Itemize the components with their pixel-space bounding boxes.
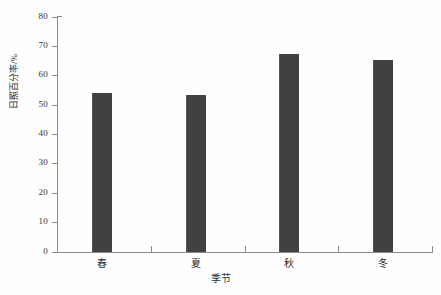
y-axis-tick-label: 20 <box>8 188 48 197</box>
bar-秋 <box>279 54 299 252</box>
y-axis-tick-label: 60 <box>8 70 48 79</box>
y-axis-tick-label: 30 <box>8 158 48 167</box>
chart-figure: 日照百分率/% 01020304050607080 春夏秋冬 季节 <box>0 0 441 295</box>
x-axis-tick <box>432 246 433 253</box>
y-axis-tick-label: 0 <box>8 247 48 256</box>
y-axis-tick-label: 50 <box>8 100 48 109</box>
x-axis-tick-label: 秋 <box>269 258 309 270</box>
x-axis-tick <box>338 246 339 253</box>
y-axis-tick-label: 70 <box>8 41 48 50</box>
bar-夏 <box>186 95 206 252</box>
y-axis-tick-label: 80 <box>8 12 48 21</box>
x-axis-title: 季节 <box>0 273 441 285</box>
bar-春 <box>92 93 112 252</box>
y-axis-tick-label: 10 <box>8 217 48 226</box>
x-axis-tick <box>151 246 152 253</box>
plot-area <box>57 17 432 252</box>
x-axis-tick-label: 夏 <box>176 258 216 270</box>
x-axis-tick-label: 春 <box>82 258 122 270</box>
y-axis-tick <box>52 252 57 253</box>
x-axis-tick-label: 冬 <box>363 258 403 270</box>
y-axis-tick-label: 40 <box>8 129 48 138</box>
x-axis-tick <box>245 246 246 253</box>
bar-冬 <box>373 60 393 252</box>
